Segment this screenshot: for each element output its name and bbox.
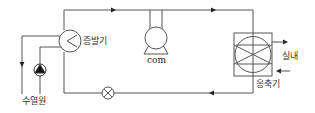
diagram-root: 증발기 com 실내 응축기 수열원 (0, 0, 315, 113)
pump-icon (34, 64, 46, 76)
arrow-down-icon (20, 62, 25, 67)
arrow-right-icon (111, 8, 116, 13)
compressor-label: com (147, 56, 166, 65)
evaporator-label: 증발기 (83, 37, 107, 46)
expansion-valve-icon (102, 87, 114, 99)
indoor-label: 실내 (282, 52, 298, 61)
pipe-bottom (64, 52, 102, 93)
condenser-label: 응축기 (256, 80, 280, 89)
arrow-right-icon (211, 8, 216, 13)
compressor-icon (144, 27, 168, 54)
water-source-label: 수열원 (22, 97, 46, 106)
pipe-bottom-right (114, 76, 253, 93)
arrow-left-icon (209, 91, 214, 96)
evaporator-icon (59, 30, 81, 52)
